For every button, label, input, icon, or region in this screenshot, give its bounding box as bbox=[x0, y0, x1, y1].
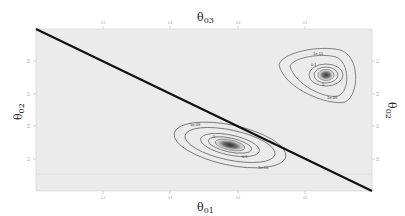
svg-text:1e-09: 1e-09 bbox=[327, 95, 338, 100]
svg-text:0.4: 0.4 bbox=[27, 124, 31, 129]
svg-text:0.4: 0.4 bbox=[236, 21, 241, 25]
axis-title-right: θ02 bbox=[384, 102, 398, 119]
svg-text:0.1: 0.1 bbox=[311, 62, 317, 67]
svg-text:0.8: 0.8 bbox=[27, 59, 31, 64]
svg-text:0.4: 0.4 bbox=[376, 92, 380, 97]
tick-labels-bottom: 0.2 0.4 0.6 0.8 bbox=[101, 196, 308, 200]
svg-text:0.4: 0.4 bbox=[168, 196, 173, 200]
contour-chart: 1e-15 0.1 5 1e-09 1e-09 5 0.1 1e-15 0 bbox=[0, 0, 405, 216]
svg-text:1e-15: 1e-15 bbox=[258, 165, 269, 170]
svg-text:0.6: 0.6 bbox=[376, 124, 380, 129]
tick-labels-right: 0.2 0.4 0.6 0.8 bbox=[376, 59, 380, 162]
tick-labels-left: 0.8 0.6 0.4 0.2 bbox=[27, 59, 31, 162]
svg-text:1e-09: 1e-09 bbox=[190, 122, 201, 127]
axis-title-bottom: θ01 bbox=[197, 201, 214, 215]
axis-title-left: θ02 bbox=[12, 103, 26, 120]
svg-text:0.1: 0.1 bbox=[242, 154, 248, 159]
svg-text:0.8: 0.8 bbox=[303, 196, 308, 200]
svg-text:0.2: 0.2 bbox=[101, 196, 106, 200]
svg-text:0.2: 0.2 bbox=[303, 21, 308, 25]
svg-text:0.6: 0.6 bbox=[236, 196, 241, 200]
svg-text:0.8: 0.8 bbox=[376, 157, 380, 162]
svg-text:0.2: 0.2 bbox=[376, 59, 380, 64]
svg-text:0.8: 0.8 bbox=[101, 21, 106, 25]
svg-text:0.6: 0.6 bbox=[168, 21, 173, 25]
axis-title-top: θ03 bbox=[197, 11, 214, 25]
svg-text:0.6: 0.6 bbox=[27, 92, 31, 97]
svg-text:1e-15: 1e-15 bbox=[313, 51, 324, 56]
svg-text:0.2: 0.2 bbox=[27, 157, 31, 162]
